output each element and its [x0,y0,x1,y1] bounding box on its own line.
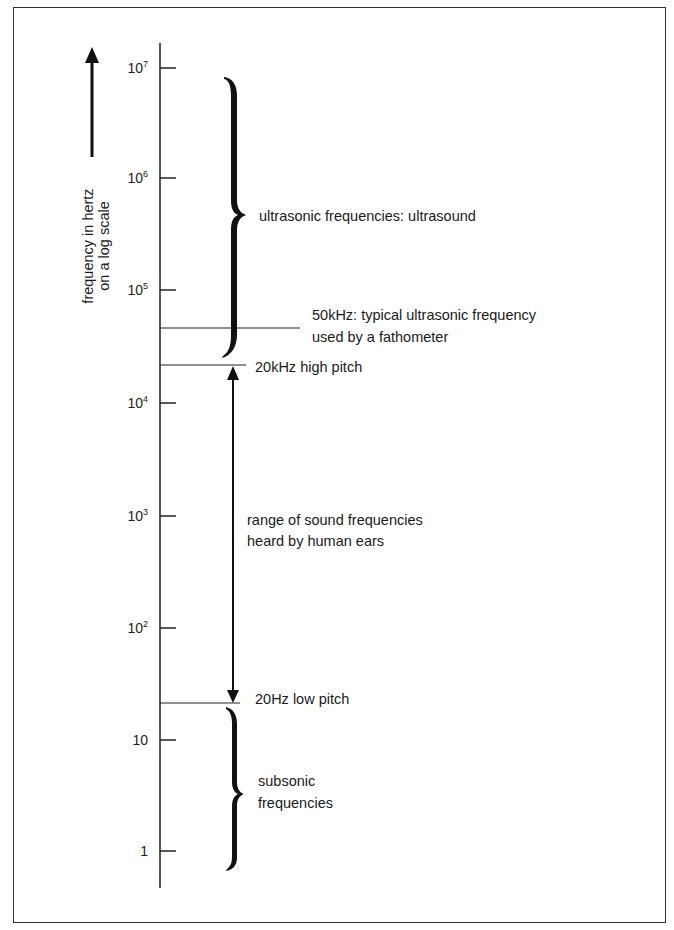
tick-label-1e7: 107 [108,59,148,76]
subsonic-label-line1: subsonic [258,772,315,791]
tick-label-1e4: 104 [108,394,148,411]
ultrasonic-label: ultrasonic frequencies: ultrasound [259,207,476,226]
frequency-diagram [0,0,674,930]
tick-label-1e3: 103 [108,507,148,524]
subsonic-label-line2: frequencies [258,794,333,813]
tick-label-1e2: 102 [108,619,148,636]
tick-label-1: 1 [108,843,148,859]
axis-title: frequency in hertz on a log scale [80,188,112,303]
tick-label-1e6: 106 [108,169,148,186]
fathometer-label-line1: 50kHz: typical ultrasonic frequency [312,306,536,325]
hearing-range-arrow [227,366,239,703]
ultrasonic-brace [222,77,246,358]
subsonic-brace [226,707,244,871]
axis-title-line2: on a log scale [96,188,112,303]
hearing-range-label-line1: range of sound frequencies [247,511,423,530]
tick-label-1e5: 105 [108,281,148,298]
axis-title-line1: frequency in hertz [80,188,96,303]
hearing-range-label-line2: heard by human ears [247,532,384,551]
high-pitch-label: 20kHz high pitch [255,358,362,377]
axis-ticks [160,68,176,851]
fathometer-label-line2: used by a fathometer [312,328,448,347]
low-pitch-label: 20Hz low pitch [255,690,349,709]
tick-label-10: 10 [108,732,148,748]
arrow-up-icon [85,47,99,157]
